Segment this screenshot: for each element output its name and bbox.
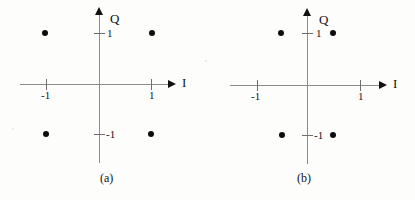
q-axis-arrow-a — [95, 7, 103, 15]
y-tick-label-plus1-a: 1 — [107, 28, 113, 39]
constellation-point — [43, 131, 49, 137]
x-tick-label-plus1-b: 1 — [358, 91, 364, 102]
constellation-point — [279, 132, 285, 138]
x-tick-label-minus1-a: -1 — [41, 90, 50, 101]
constellation-point — [149, 30, 155, 36]
panel-b: I Q -1 1 1 -1 (b) — [208, 0, 415, 200]
q-axis-label-a: Q — [110, 12, 119, 25]
i-axis-arrow-a — [168, 80, 176, 88]
x-tick-label-plus1-a: 1 — [149, 90, 155, 101]
q-axis-label-b: Q — [319, 13, 328, 26]
constellation-point — [330, 30, 336, 36]
y-tick-label-minus1-a: -1 — [106, 129, 115, 140]
i-axis-label-a: I — [182, 76, 186, 89]
y-tick-minus1-a — [94, 134, 105, 135]
panel-caption-a: (a) — [100, 172, 113, 184]
q-axis-arrow-b — [303, 8, 311, 16]
constellation-point — [330, 132, 336, 138]
y-tick-label-plus1-b: 1 — [316, 28, 322, 39]
y-tick-plus1-a — [94, 33, 105, 34]
y-tick-label-minus1-b: -1 — [314, 130, 323, 141]
constellation-figure: I Q -1 1 1 -1 (a) I Q -1 1 1 -1 — [0, 0, 415, 200]
constellation-point — [278, 30, 284, 36]
panel-a: I Q -1 1 1 -1 (a) — [0, 0, 207, 200]
y-tick-plus1-b — [302, 33, 313, 34]
constellation-point — [148, 131, 154, 137]
panel-caption-b: (b) — [297, 172, 311, 184]
constellation-point — [42, 30, 48, 36]
i-axis-arrow-b — [379, 81, 387, 89]
y-tick-minus1-b — [302, 135, 313, 136]
i-axis-a — [20, 84, 171, 85]
x-tick-label-minus1-b: -1 — [251, 91, 260, 102]
i-axis-label-b: I — [393, 77, 397, 90]
